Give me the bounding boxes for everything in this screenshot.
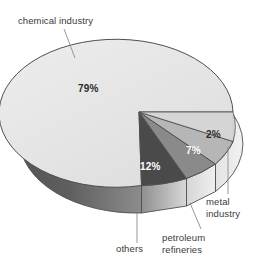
slice-label-metal-industry: metal industry xyxy=(206,196,240,219)
slice-label-metal-industry-line2: industry xyxy=(206,208,240,220)
slice-value-chemical-industry: 79% xyxy=(78,83,99,94)
pie-top-face xyxy=(0,39,235,187)
slice-value-metal-industry: 2% xyxy=(206,129,221,140)
pie-chart: chemical industry metal industry others … xyxy=(0,0,264,262)
pie-chart-graphic xyxy=(0,0,264,262)
slice-value-petroleum-refineries: 7% xyxy=(186,145,201,156)
slice-label-metal-industry-line1: metal xyxy=(206,196,240,208)
slice-label-petroleum-refineries-line1: petroleum xyxy=(162,232,205,244)
leader-line-petroleum-refineries xyxy=(190,203,201,229)
slice-label-chemical-industry: chemical industry xyxy=(18,15,93,27)
slice-value-others: 12% xyxy=(140,161,161,172)
slice-label-petroleum-refineries: petroleum refineries xyxy=(162,232,205,255)
slice-label-others: others xyxy=(116,243,143,255)
slice-label-petroleum-refineries-line2: refineries xyxy=(162,244,205,256)
